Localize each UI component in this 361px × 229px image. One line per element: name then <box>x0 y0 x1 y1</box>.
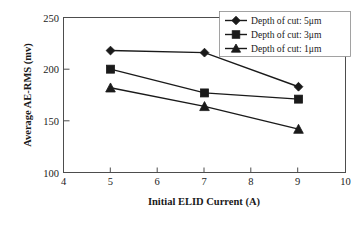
x-axis-ticks <box>110 168 297 173</box>
x-tick-label: 10 <box>340 176 351 187</box>
chart-container: 250 200 150 100 4 5 6 7 8 9 10 Initial E… <box>0 0 361 229</box>
marker-group <box>106 46 304 133</box>
y-axis-tick-labels: 250 200 150 100 <box>43 13 59 179</box>
square-marker <box>295 95 303 103</box>
x-tick-label: 8 <box>248 176 253 187</box>
x-tick-label: 5 <box>108 176 113 187</box>
square-marker <box>201 89 209 97</box>
y-tick-label: 250 <box>43 13 59 24</box>
square-marker <box>232 31 240 39</box>
y-tick-label: 200 <box>43 64 59 75</box>
x-tick-label: 6 <box>155 176 160 187</box>
square-marker <box>107 65 115 73</box>
legend-label-3um: Depth of cut: 3μm <box>251 29 322 40</box>
x-axis-tick-labels: 4 5 6 7 8 9 10 <box>61 176 351 187</box>
line-chart: 250 200 150 100 4 5 6 7 8 9 10 Initial E… <box>0 0 361 229</box>
y-tick-label: 100 <box>43 168 59 179</box>
triangle-marker <box>106 83 116 92</box>
x-tick-label: 4 <box>61 176 67 187</box>
diamond-marker <box>106 46 115 55</box>
x-tick-label: 9 <box>295 176 300 187</box>
x-tick-label: 7 <box>201 176 206 187</box>
x-axis-title: Initial ELID Current (A) <box>148 196 261 208</box>
legend-label-5um: Depth of cut: 5μm <box>251 15 322 26</box>
legend-entry-3um[interactable]: Depth of cut: 3μm <box>225 29 322 40</box>
y-axis-ticks <box>64 18 70 173</box>
y-axis-title: Average AE-RMS (mv) <box>22 43 34 147</box>
legend-label-1um: Depth of cut: 1μm <box>251 43 322 54</box>
diamond-marker <box>200 48 209 57</box>
diamond-marker <box>294 82 303 91</box>
legend: Depth of cut: 5μm Depth of cut: 3μm Dept… <box>220 12 351 57</box>
y-tick-label: 150 <box>43 116 59 127</box>
